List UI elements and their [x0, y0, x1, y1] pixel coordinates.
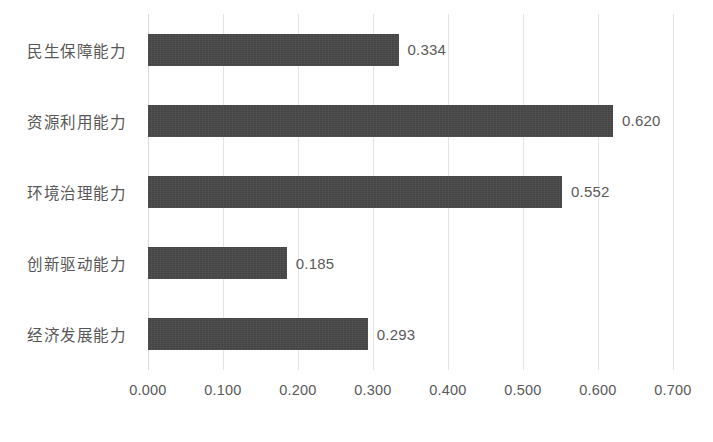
bar-value-label: 0.185 [296, 255, 335, 272]
bar[interactable] [148, 176, 562, 208]
category-label: 环境治理能力 [27, 156, 126, 227]
bar-row: 0.185 [148, 228, 673, 299]
x-tick-label: 0.000 [129, 382, 166, 398]
plot-area: 0.334 0.620 0.552 0.185 0.293 [148, 14, 673, 370]
x-tick-label: 0.300 [354, 382, 391, 398]
x-axis-tick-labels: 0.000 0.100 0.200 0.300 0.400 0.500 0.60… [148, 382, 673, 406]
gridline [673, 14, 674, 370]
x-tick-label: 0.400 [429, 382, 466, 398]
bar-value-label: 0.620 [622, 112, 661, 129]
category-label: 资源利用能力 [27, 85, 126, 156]
bar[interactable] [148, 34, 399, 66]
bar-row: 0.293 [148, 299, 673, 370]
bar-rows: 0.334 0.620 0.552 0.185 0.293 [148, 14, 673, 370]
x-tick-label: 0.100 [204, 382, 241, 398]
category-axis-labels: 民生保障能力 资源利用能力 环境治理能力 创新驱动能力 经济发展能力 [0, 14, 140, 370]
category-label: 创新驱动能力 [27, 228, 126, 299]
category-label: 经济发展能力 [27, 299, 126, 370]
category-label: 民生保障能力 [27, 14, 126, 85]
x-tick-label: 0.700 [654, 382, 691, 398]
bar[interactable] [148, 247, 287, 279]
x-tick-label: 0.500 [504, 382, 541, 398]
bar[interactable] [148, 318, 368, 350]
bar-value-label: 0.552 [571, 183, 610, 200]
x-tick-label: 0.200 [279, 382, 316, 398]
bar-row: 0.334 [148, 14, 673, 85]
bar-row: 0.552 [148, 156, 673, 227]
bar-row: 0.620 [148, 85, 673, 156]
bar-chart: 民生保障能力 资源利用能力 环境治理能力 创新驱动能力 经济发展能力 0.334… [0, 0, 713, 442]
bar[interactable] [148, 105, 613, 137]
bar-value-label: 0.293 [377, 326, 416, 343]
bar-value-label: 0.334 [408, 41, 447, 58]
x-tick-label: 0.600 [579, 382, 616, 398]
